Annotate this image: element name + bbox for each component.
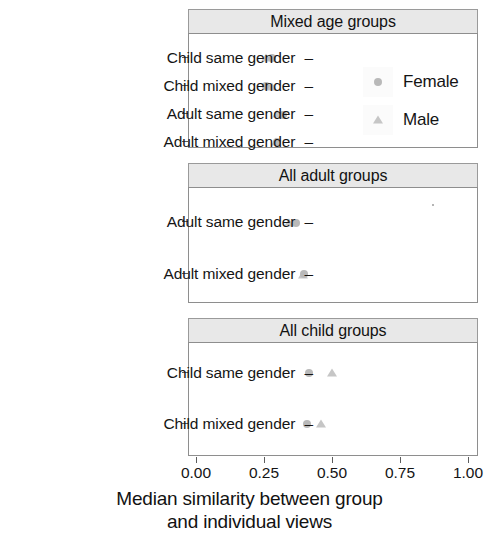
faceted-dot-plot-figure: Mixed age groups Female Mal: [0, 0, 499, 533]
x-tick-label-4: 1.00: [453, 464, 483, 482]
x-tick-mark: [400, 457, 401, 463]
x-tick-mark: [468, 457, 469, 463]
legend-key-male: [363, 105, 393, 135]
facet-strip-label: All child groups: [280, 322, 387, 340]
x-axis-title-line-1: Median similarity between group: [0, 487, 499, 510]
facet-strip-label: Mixed age groups: [270, 13, 396, 31]
x-tick-label-1: 0.25: [249, 464, 279, 482]
y-axis-label-adult-mixed-gender-mixed: Adult mixed gender –: [163, 134, 313, 150]
legend-key-female: [363, 67, 393, 97]
y-axis-label-child-mixed-gender-mixed: Child mixed gender –: [164, 78, 314, 94]
facet-strip-mixed-age-groups: Mixed age groups: [188, 9, 478, 34]
facet-strip-all-child-groups: All child groups: [188, 318, 478, 343]
legend-item-female: Female: [363, 67, 475, 97]
y-tick-dash: –: [304, 214, 313, 230]
triangle-marker-icon: [373, 116, 383, 124]
y-tick-dash: –: [304, 106, 313, 122]
y-axis-label-child-mixed-gender-children: Child mixed gender –: [164, 416, 314, 432]
y-tick-dash: –: [304, 78, 313, 94]
x-axis-title-line-2: and individual views: [0, 510, 499, 533]
x-tick-label-3: 0.75: [385, 464, 415, 482]
y-tick-dash: –: [304, 416, 313, 432]
y-axis-label-adult-same-gender-mixed: Adult same gender –: [167, 106, 313, 122]
y-axis-label-child-same-gender-children: Child same gender –: [167, 365, 313, 381]
circle-marker-icon: [374, 78, 382, 86]
x-tick-mark: [264, 457, 265, 463]
y-tick-dash: –: [304, 134, 313, 150]
y-tick-dash: –: [304, 50, 313, 66]
facet-panel-all-child-groups: [188, 342, 478, 456]
y-tick-dash: –: [304, 365, 313, 381]
x-axis-title: Median similarity between group and indi…: [0, 487, 499, 533]
legend-label-female: Female: [403, 72, 459, 92]
data-point-male: [316, 420, 326, 428]
facet-panel-all-adult-groups: [188, 187, 478, 303]
y-tick-dash: –: [304, 266, 313, 282]
legend-item-male: Male: [363, 105, 475, 135]
facet-strip-label: All adult groups: [279, 167, 388, 185]
x-tick-label-2: 0.50: [317, 464, 347, 482]
x-tick-label-0: 0.00: [181, 464, 211, 482]
y-axis-label-adult-same-gender-adults: Adult same gender –: [167, 214, 313, 230]
y-axis-label-adult-mixed-gender-adults: Adult mixed gender –: [163, 266, 313, 282]
x-tick-mark: [196, 457, 197, 463]
data-point-male: [327, 369, 337, 377]
scan-artifact-speck: [432, 204, 434, 206]
facet-strip-all-adult-groups: All adult groups: [188, 163, 478, 188]
x-tick-mark: [332, 457, 333, 463]
y-axis-label-child-same-gender-mixed: Child same gender –: [167, 50, 313, 66]
legend-label-male: Male: [403, 110, 439, 130]
legend: Female Male: [363, 67, 475, 135]
